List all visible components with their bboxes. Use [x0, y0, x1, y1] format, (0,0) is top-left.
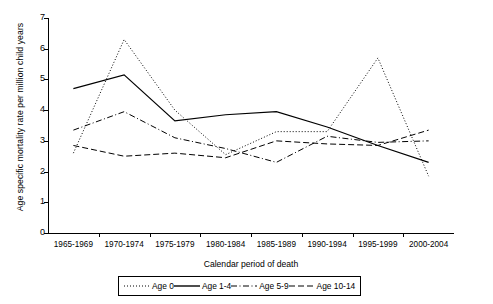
y-tick-label: 3 [40, 135, 45, 145]
y-tick-label: 6 [40, 43, 45, 53]
series-lines [48, 18, 454, 233]
y-tick-label: 4 [40, 104, 45, 114]
x-tick-mark [200, 233, 201, 237]
legend-line-swatch [289, 282, 315, 290]
series-line-age-5-9 [73, 112, 428, 163]
x-axis-title: Calendar period of death [48, 259, 454, 269]
x-tick-mark [251, 233, 252, 237]
legend-label: Age 10-14 [317, 281, 356, 291]
line-chart: Age specific mortality rate per million … [0, 0, 493, 304]
x-tick-label: 1995-1999 [358, 240, 397, 249]
x-tick-label: 1990-1994 [308, 240, 347, 249]
plot-area: 01234567 1965-19691970-19741975-19791980… [48, 18, 454, 233]
legend-item-age-0: Age 0 [124, 281, 174, 291]
y-axis-title: Age specific mortality rate per million … [15, 5, 25, 230]
y-tick-label: 1 [40, 196, 45, 206]
x-tick-label: 2000-2004 [409, 240, 448, 249]
legend-label: Age 0 [152, 281, 174, 291]
y-tick-label: 5 [40, 73, 45, 83]
legend-label: Age 1-4 [202, 281, 231, 291]
legend-item-age-10-14: Age 10-14 [289, 281, 356, 291]
x-tick-label: 1985-1989 [257, 240, 296, 249]
legend-line-swatch [174, 282, 200, 290]
x-tick-mark [403, 233, 404, 237]
x-tick-label: 1965-1969 [54, 240, 93, 249]
legend-item-age-5-9: Age 5-9 [231, 281, 288, 291]
y-tick-label: 2 [40, 166, 45, 176]
legend-label: Age 5-9 [259, 281, 288, 291]
legend-item-age-1-4: Age 1-4 [174, 281, 231, 291]
y-tick-label: 0 [40, 227, 45, 237]
legend-line-swatch [231, 282, 257, 290]
x-tick-mark [99, 233, 100, 237]
chart-legend: Age 0Age 1-4Age 5-9Age 10-14 [118, 276, 361, 296]
x-tick-mark [302, 233, 303, 237]
legend-line-swatch [124, 282, 150, 290]
y-tick-label: 7 [40, 12, 45, 22]
x-tick-label: 1975-1979 [155, 240, 194, 249]
x-tick-mark [150, 233, 151, 237]
x-tick-mark [353, 233, 354, 237]
x-tick-label: 1970-1974 [105, 240, 144, 249]
x-tick-label: 1980-1984 [206, 240, 245, 249]
